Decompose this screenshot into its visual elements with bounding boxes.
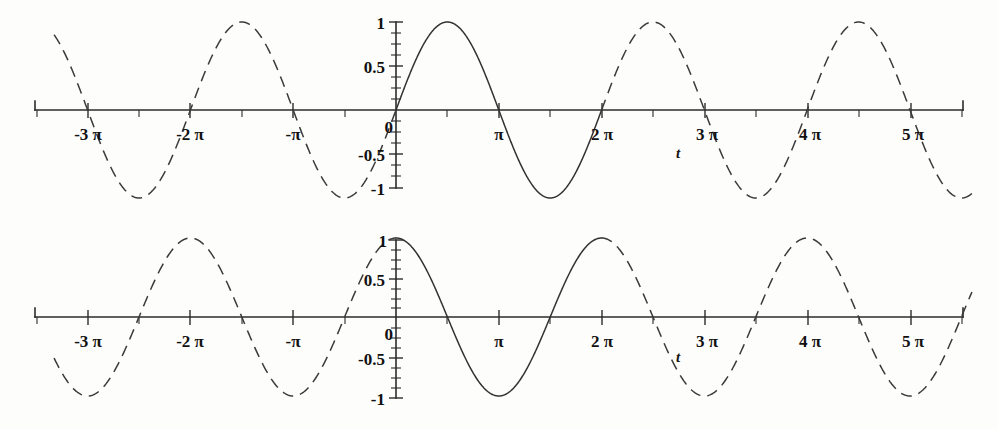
cosine-xtick-label-neg3pi: -3 π bbox=[74, 332, 102, 351]
sine-ytick-label-negone: -1 bbox=[371, 180, 385, 199]
sine-ytick-label-zero: 0 bbox=[385, 118, 394, 137]
cosine-ytick-label-half: 0.5 bbox=[364, 271, 385, 290]
cosine-xtick-label-pi: π bbox=[494, 332, 504, 351]
cosine-xtick-label-2pi: 2 π bbox=[591, 332, 614, 351]
cosine-plot-panel: -3 π -2 π -π π 2 π 3 π 4 π 5 π 1 0.5 0 -… bbox=[0, 215, 998, 429]
sine-x-axis-label: t bbox=[676, 145, 681, 161]
sine-xtick-label-2pi: 2 π bbox=[591, 125, 614, 144]
cosine-x-axis-label: t bbox=[676, 349, 681, 365]
cosine-plot-svg: -3 π -2 π -π π 2 π 3 π 4 π 5 π 1 0.5 0 -… bbox=[0, 215, 998, 429]
cosine-ytick-label-negone: -1 bbox=[371, 390, 385, 409]
cosine-ytick-label-zero: 0 bbox=[385, 325, 394, 344]
sine-ytick-label-half: 0.5 bbox=[364, 58, 385, 77]
sine-plot-panel: -3 π -2 π -π π 2 π 3 π 4 π 5 π 1 0.5 0 -… bbox=[0, 0, 998, 215]
sine-xtick-label-neg3pi: -3 π bbox=[74, 125, 102, 144]
figure-container: -3 π -2 π -π π 2 π 3 π 4 π 5 π 1 0.5 0 -… bbox=[0, 0, 998, 429]
cosine-xtick-label-4pi: 4 π bbox=[799, 332, 822, 351]
cosine-ytick-label-neghalf: -0.5 bbox=[358, 350, 385, 369]
sine-xtick-label-neg2pi: -2 π bbox=[176, 125, 204, 144]
cosine-xtick-label-5pi: 5 π bbox=[902, 332, 925, 351]
cosine-xtick-label-neg2pi: -2 π bbox=[176, 332, 204, 351]
cosine-xtick-label-neg1pi: -π bbox=[286, 332, 302, 351]
sine-xtick-label-3pi: 3 π bbox=[696, 125, 719, 144]
sine-xtick-label-4pi: 4 π bbox=[799, 125, 822, 144]
sine-xtick-label-pi: π bbox=[494, 125, 504, 144]
cosine-ytick-label-one: 1 bbox=[379, 232, 388, 251]
sine-ytick-label-one: 1 bbox=[377, 14, 386, 33]
sine-ytick-label-neghalf: -0.5 bbox=[358, 146, 385, 165]
sine-xtick-label-5pi: 5 π bbox=[902, 125, 925, 144]
cosine-xtick-label-3pi: 3 π bbox=[696, 332, 719, 351]
sine-plot-svg: -3 π -2 π -π π 2 π 3 π 4 π 5 π 1 0.5 0 -… bbox=[0, 0, 998, 215]
sine-xtick-label-neg1pi: -π bbox=[286, 125, 302, 144]
